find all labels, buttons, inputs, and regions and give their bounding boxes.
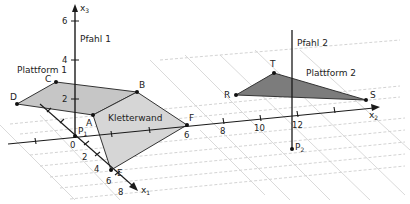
label-e: E xyxy=(117,168,123,178)
label-r: R xyxy=(224,90,230,100)
point-e xyxy=(109,168,113,172)
x2-tick-10: 10 xyxy=(254,123,265,133)
coordinate-diagram: 6 4 2 0 2 4 6 8 6 8 10 12 x3 x1 x2 A B C… xyxy=(0,0,410,204)
point-a xyxy=(91,113,95,117)
x1-tick-8: 8 xyxy=(118,187,123,197)
point-b xyxy=(135,90,139,94)
x3-axis-pfahl-1 xyxy=(71,4,79,136)
x3-tick-6: 6 xyxy=(62,16,67,26)
x2-tick-12: 12 xyxy=(292,120,303,130)
label-a: A xyxy=(86,118,93,128)
label-pfahl-1: Pfahl 1 xyxy=(80,34,111,44)
x3-axis-label: x3 xyxy=(80,3,89,14)
x1-tick-2: 2 xyxy=(82,152,87,162)
x2-tick-6: 6 xyxy=(184,130,189,140)
x3-tick-2: 2 xyxy=(62,94,67,104)
grid-dashed-lines xyxy=(10,40,405,199)
label-c: C xyxy=(45,74,51,84)
label-s: S xyxy=(370,90,376,100)
point-f xyxy=(185,123,189,127)
point-r xyxy=(234,93,238,97)
point-s xyxy=(364,98,368,102)
point-d xyxy=(15,102,19,106)
x1-tick-6: 6 xyxy=(106,176,111,186)
x2-tick-8: 8 xyxy=(220,126,225,136)
label-p2: P2 xyxy=(295,142,304,153)
x3-tick-4: 4 xyxy=(62,55,67,65)
point-p1 xyxy=(73,134,77,138)
point-p2 xyxy=(290,147,294,151)
x2-axis-label: x2 xyxy=(369,110,378,121)
label-t: T xyxy=(269,59,276,69)
point-c xyxy=(54,80,58,84)
x1-tick-4: 4 xyxy=(94,164,99,174)
label-b: B xyxy=(139,80,145,90)
label-pfahl-2: Pfahl 2 xyxy=(297,38,328,48)
label-kletterwand: Kletterwand xyxy=(108,113,163,123)
origin-label: 0 xyxy=(70,140,75,150)
label-plattform-2: Plattform 2 xyxy=(306,68,356,78)
point-t xyxy=(272,71,276,75)
label-f: F xyxy=(189,113,194,123)
x1-axis-label: x1 xyxy=(141,185,150,196)
label-d: D xyxy=(10,92,17,102)
label-plattform-1: Plattform 1 xyxy=(17,65,67,75)
